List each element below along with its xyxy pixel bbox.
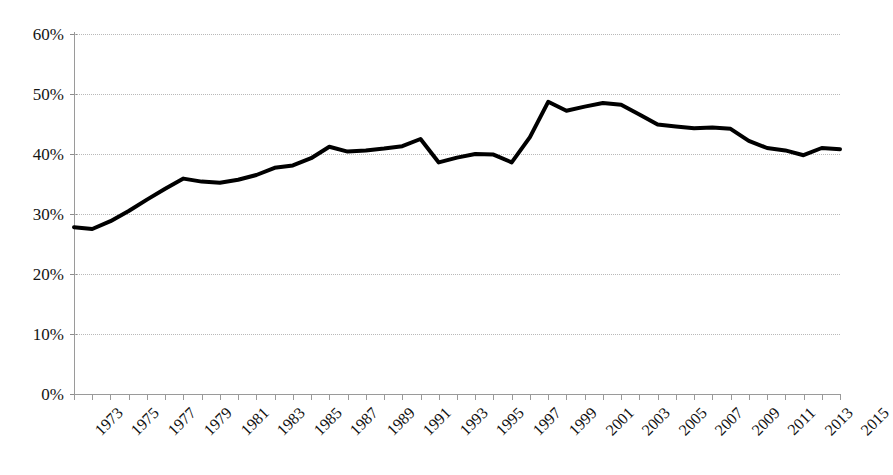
y-axis-label-60: 60% [8, 25, 64, 45]
x-tick-1998 [530, 394, 531, 400]
x-tick-1996 [493, 394, 494, 400]
plot-area [74, 34, 840, 394]
x-tick-1985 [293, 394, 294, 400]
gridline-60 [74, 34, 840, 35]
y-axis-label-30: 30% [8, 205, 64, 225]
x-tick-1993 [439, 394, 440, 400]
x-tick-1995 [475, 394, 476, 400]
x-tick-1990 [384, 394, 385, 400]
x-tick-1994 [457, 394, 458, 400]
x-tick-2010 [749, 394, 750, 400]
x-tick-2012 [785, 394, 786, 400]
gridline-20 [74, 274, 840, 275]
x-tick-1991 [402, 394, 403, 400]
x-tick-1997 [512, 394, 513, 400]
x-tick-1982 [238, 394, 239, 400]
x-tick-2001 [585, 394, 586, 400]
x-tick-1992 [421, 394, 422, 400]
x-tick-2008 [712, 394, 713, 400]
x-tick-1999 [548, 394, 549, 400]
x-tick-2000 [566, 394, 567, 400]
x-tick-2004 [639, 394, 640, 400]
x-tick-2007 [694, 394, 695, 400]
x-tick-1973 [74, 394, 75, 400]
x-tick-2005 [658, 394, 659, 400]
y-axis-label-40: 40% [8, 145, 64, 165]
x-tick-1978 [165, 394, 166, 400]
x-tick-1980 [202, 394, 203, 400]
x-tick-1987 [329, 394, 330, 400]
x-tick-1979 [183, 394, 184, 400]
y-axis-line [74, 32, 75, 396]
x-tick-1976 [129, 394, 130, 400]
x-tick-2002 [603, 394, 604, 400]
x-tick-2003 [621, 394, 622, 400]
x-tick-1981 [220, 394, 221, 400]
gridline-30 [74, 214, 840, 215]
y-axis-label-10: 10% [8, 325, 64, 345]
x-axis-label-2015: 2015 [857, 404, 892, 439]
x-tick-1986 [311, 394, 312, 400]
x-tick-1974 [92, 394, 93, 400]
x-tick-2013 [804, 394, 805, 400]
y-axis-label-0: 0% [8, 385, 64, 405]
y-axis-label-50: 50% [8, 85, 64, 105]
x-tick-2015 [840, 394, 841, 400]
x-tick-2014 [822, 394, 823, 400]
x-tick-1988 [348, 394, 349, 400]
x-tick-2011 [767, 394, 768, 400]
x-tick-1989 [366, 394, 367, 400]
gridline-10 [74, 334, 840, 335]
x-tick-2009 [731, 394, 732, 400]
x-tick-1984 [275, 394, 276, 400]
x-tick-1975 [110, 394, 111, 400]
x-tick-1977 [147, 394, 148, 400]
gridline-40 [74, 154, 840, 155]
gridline-50 [74, 94, 840, 95]
x-tick-2006 [676, 394, 677, 400]
y-axis-label-20: 20% [8, 265, 64, 285]
x-tick-1983 [256, 394, 257, 400]
